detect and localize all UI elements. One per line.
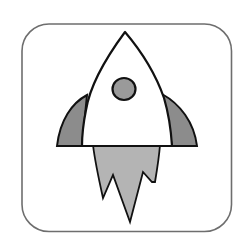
rocket-window-icon <box>113 78 136 100</box>
rocket-app-icon[interactable] <box>0 0 246 251</box>
